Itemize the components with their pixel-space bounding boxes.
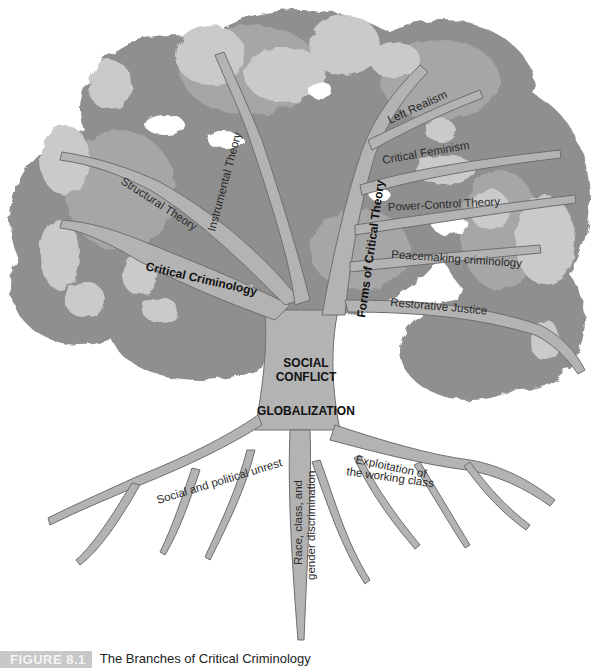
figure-number-badge: FIGURE 8.1 [0, 651, 92, 668]
figure-title: The Branches of Critical Criminology [100, 651, 311, 667]
label-globalization: GLOBALIZATION [257, 404, 355, 418]
tree-diagram-figure: Structural Theory Instrumental Theory Cr… [0, 0, 596, 668]
label-conflict: CONFLICT [276, 370, 337, 384]
figure-caption: FIGURE 8.1 The Branches of Critical Crim… [0, 651, 311, 668]
label-social: SOCIAL [283, 356, 328, 370]
label-race-class-line1: Race, class, and [292, 480, 304, 565]
tree-illustration: Structural Theory Instrumental Theory Cr… [0, 0, 596, 668]
label-race-class-line2: gender discrimination [305, 471, 317, 580]
